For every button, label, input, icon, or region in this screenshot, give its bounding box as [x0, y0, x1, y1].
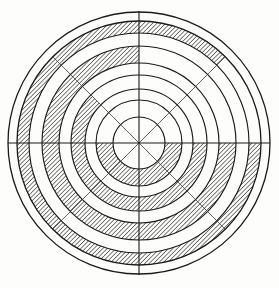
principal-axes-layer — [8, 11, 270, 275]
polar-ring-chart — [0, 0, 279, 288]
radial-spoke — [139, 57, 225, 143]
hatched-annular-sector — [139, 21, 225, 65]
polar-diagram-figure — [0, 0, 279, 288]
